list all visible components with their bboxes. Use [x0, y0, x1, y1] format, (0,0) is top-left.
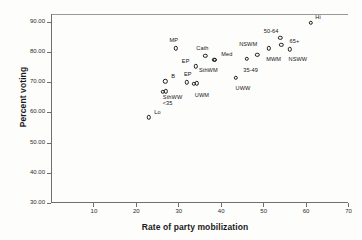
x-tick-label: 60: [303, 208, 310, 214]
data-point-label: EP: [184, 71, 192, 77]
scatter-plot-figure: Percent voting Rate of party mobilizatio…: [0, 0, 362, 240]
y-axis-line: [51, 14, 52, 203]
data-point-label: Lo: [154, 109, 160, 115]
y-tick: 50.00: [47, 143, 51, 144]
y-tick: 60.00: [47, 112, 51, 113]
data-point-label: SthWW: [163, 94, 182, 100]
data-point-marker: [309, 21, 313, 25]
plot-area: 30.0040.0050.0060.0070.0080.0090.00 1020…: [51, 14, 348, 203]
data-point-label: B: [171, 73, 175, 79]
data-point-label: 65+: [289, 38, 299, 44]
y-tick: 80.00: [47, 52, 51, 53]
data-point-marker: [193, 64, 197, 68]
y-tick-label: 60.00: [30, 108, 45, 114]
y-tick: 90.00: [47, 22, 51, 23]
x-tick-label: 40: [218, 208, 225, 214]
data-point-label: 50-64: [264, 28, 279, 34]
data-point-marker: [278, 35, 282, 39]
y-tick: 40.00: [47, 173, 51, 174]
data-point-marker: [163, 79, 167, 83]
data-point-marker: [185, 80, 189, 84]
y-tick-label: 30.00: [30, 199, 45, 205]
y-tick-label: 90.00: [30, 18, 45, 24]
x-tick: 30: [178, 203, 179, 207]
x-tick-label: 20: [133, 208, 140, 214]
data-point-marker: [279, 42, 283, 46]
data-point-label: <35: [163, 100, 173, 106]
y-tick: 70.00: [47, 82, 51, 83]
x-tick-label: 30: [175, 208, 182, 214]
data-point-marker: [255, 52, 259, 56]
plot-top-border: [51, 14, 348, 15]
y-tick-label: 40.00: [30, 169, 45, 175]
y-tick-label: 80.00: [30, 48, 45, 54]
data-point-label: UWW: [236, 85, 251, 91]
y-axis-title: Percent voting: [18, 27, 28, 167]
x-tick-label: 10: [91, 208, 98, 214]
data-point-label: UWM: [195, 92, 209, 98]
data-point-label: 35-49: [243, 67, 258, 73]
x-axis-title: Rate of party mobilization: [50, 222, 340, 232]
data-point-marker: [174, 46, 178, 50]
data-point-marker: [194, 81, 198, 85]
x-tick: 20: [136, 203, 137, 207]
data-point-label: NSWM: [239, 41, 257, 47]
data-point-label: SthWM: [199, 67, 218, 73]
data-point-label: Med: [221, 51, 232, 57]
data-point-label: Cath: [196, 45, 208, 51]
x-tick: 50: [263, 203, 264, 207]
data-point-label: MWM: [266, 56, 281, 62]
data-point-marker: [266, 46, 270, 50]
data-point-marker: [203, 54, 207, 58]
data-point-label: EP: [182, 58, 190, 64]
y-tick: 30.00: [47, 203, 51, 204]
x-tick: 10: [93, 203, 94, 207]
data-point-marker: [234, 75, 238, 79]
data-point-label: MP: [169, 37, 178, 43]
x-tick: 40: [221, 203, 222, 207]
y-tick-label: 70.00: [30, 78, 45, 84]
x-tick-label: 50: [260, 208, 267, 214]
x-tick-label: 70: [345, 208, 352, 214]
x-axis-line: [51, 202, 348, 203]
data-point-label: Hi: [315, 14, 320, 20]
data-point-marker: [244, 57, 248, 61]
y-tick-label: 50.00: [30, 139, 45, 145]
data-point-label: NSWW: [288, 56, 307, 62]
x-tick: 70: [348, 203, 349, 207]
data-point-marker: [146, 115, 150, 119]
data-point-marker: [288, 47, 292, 51]
data-point-marker: [213, 57, 217, 61]
x-tick: 60: [306, 203, 307, 207]
